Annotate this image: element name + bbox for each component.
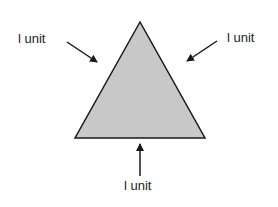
label-left-side: l unit [18, 31, 45, 46]
arrow-right-icon [187, 41, 217, 61]
label-bottom-side: l unit [124, 178, 151, 193]
arrow-left-icon [67, 42, 97, 62]
label-right-side: l unit [227, 30, 254, 45]
triangle [75, 22, 205, 138]
